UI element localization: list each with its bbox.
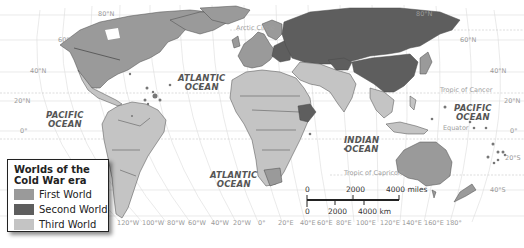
legend-label: Second World xyxy=(39,204,108,215)
lon-label-120e: 120°E xyxy=(380,220,400,227)
ocean-label-line: OCEAN xyxy=(345,144,379,154)
second-world-swatch xyxy=(14,204,34,215)
lat-label-left-60n: 60°N xyxy=(58,37,74,44)
legend-label: Third World xyxy=(39,219,96,230)
lat-label-left-0: 0° xyxy=(20,128,27,135)
arctic-circle-label: Arctic Circle xyxy=(236,25,275,32)
lat-label-right-60n: 60°N xyxy=(460,37,476,44)
lon-label-80w: 80°W xyxy=(167,220,185,227)
ocean-label-line: OCEAN xyxy=(185,82,219,92)
lon-label-20e: 20°E xyxy=(278,220,294,227)
legend-title-line2: Cold War era xyxy=(14,175,87,186)
tropic-capricorn-label: Tropic of Capricorn xyxy=(344,170,405,177)
lat-label-right-20s: 20°S xyxy=(505,155,521,162)
equator-label: Equator xyxy=(443,125,469,132)
scale-miles-0: 0 xyxy=(305,186,310,194)
scale-bar: 0 2000 4000 miles 0 2000 4000 km xyxy=(296,186,414,216)
lon-label-160e: 160°E xyxy=(424,220,444,227)
scale-bar-line xyxy=(296,194,414,208)
lon-label-80e: 80°E xyxy=(336,220,352,227)
africa xyxy=(230,70,316,186)
first-world-swatch xyxy=(14,189,34,200)
map-legend: Worlds of the Cold War era First World S… xyxy=(7,159,109,232)
legend-title-line1: Worlds of the xyxy=(14,164,90,175)
south-america xyxy=(102,102,166,218)
lon-label-40e: 40°E xyxy=(300,220,316,227)
lat-label-right-20n: 20°N xyxy=(504,98,520,105)
legend-item-first-world: First World xyxy=(14,188,102,201)
ocean-label-line: OCEAN xyxy=(48,119,82,129)
lon-label-120w: 120°W xyxy=(117,220,139,227)
lon-label-60w: 60°W xyxy=(188,220,206,227)
legend-item-third-world: Third World xyxy=(14,218,102,231)
lon-label-40w: 40°W xyxy=(211,220,229,227)
scale-km-4000: 4000 km xyxy=(358,208,391,216)
ocean-label-line: OCEAN xyxy=(456,112,490,122)
atlantic-ocean-south-label: ATLANTICOCEAN xyxy=(210,171,257,189)
lat-label-left-80n: 80°N xyxy=(98,11,114,18)
atlantic-ocean-north-label: ATLANTICOCEAN xyxy=(178,74,225,92)
lat-label-left-40n: 40°N xyxy=(30,68,46,75)
tropic-cancer-label: Tropic of Cancer xyxy=(440,87,492,94)
lon-label-60e: 60°E xyxy=(317,220,333,227)
lat-label-right-40n: 40°N xyxy=(490,68,506,75)
scale-miles-2000: 2000 xyxy=(346,186,365,194)
lat-label-left-20n: 20°N xyxy=(14,98,30,105)
lat-label-right-0: 0° xyxy=(510,128,517,135)
lon-label-100w: 100°W xyxy=(142,220,164,227)
lon-label-20w: 20°W xyxy=(233,220,251,227)
lon-label-0: 0° xyxy=(258,220,265,227)
lon-label-180: 180° xyxy=(446,220,462,227)
ocean-label-line: OCEAN xyxy=(217,179,251,189)
indian-ocean-label: INDIANOCEAN xyxy=(344,136,379,154)
legend-title: Worlds of the Cold War era xyxy=(14,164,102,186)
lat-label-right-40s: 40°S xyxy=(490,187,506,194)
legend-item-second-world: Second World xyxy=(14,203,102,216)
scale-miles-4000: 4000 miles xyxy=(386,186,427,194)
third-world-swatch xyxy=(14,219,34,230)
legend-label: First World xyxy=(39,189,92,200)
lon-label-140e: 140°E xyxy=(402,220,422,227)
scale-km-0: 0 xyxy=(305,208,310,216)
scale-km-2000: 2000 xyxy=(328,208,347,216)
lat-label-right-80n: 80°N xyxy=(416,11,432,18)
lon-label-100e: 100°E xyxy=(356,220,376,227)
pacific-ocean-east-label: PACIFICOCEAN xyxy=(454,104,492,122)
pacific-ocean-west-label: PACIFICOCEAN xyxy=(46,111,84,129)
